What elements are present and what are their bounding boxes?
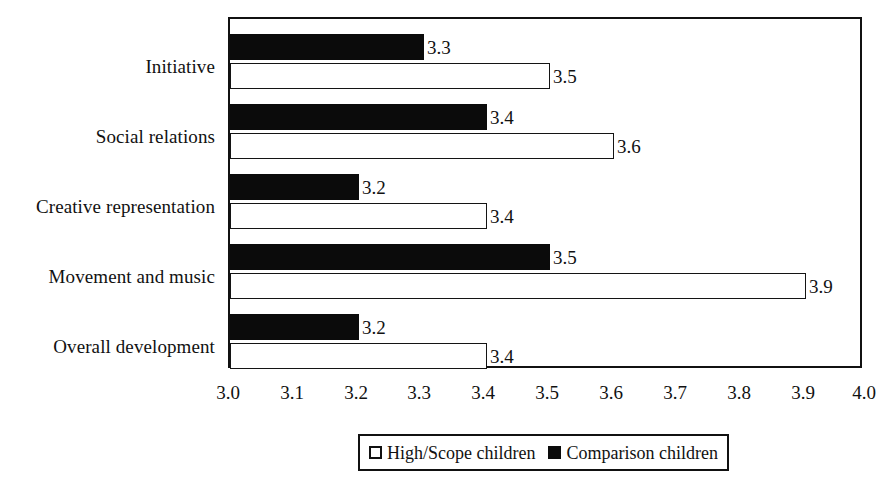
bar-highscope-creative-representation — [230, 203, 487, 229]
bar-comparison-movement-and-music — [230, 244, 550, 270]
chart-legend: High/Scope children Comparison children — [358, 434, 729, 471]
value-label-highscope-creative-representation: 3.4 — [490, 207, 514, 226]
xtick-3-2: 3.2 — [333, 383, 379, 402]
category-label-social-relations: Social relations — [96, 127, 215, 146]
category-label-overall-development: Overall development — [53, 337, 215, 356]
legend-swatch-filled-icon — [548, 446, 561, 459]
legend-label-highscope: High/Scope children — [387, 444, 535, 462]
category-label-movement-and-music: Movement and music — [49, 267, 215, 286]
value-label-comparison-overall-development: 3.2 — [362, 318, 386, 337]
xtick-3-3: 3.3 — [396, 383, 442, 402]
xtick-3-4: 3.4 — [460, 383, 506, 402]
bar-comparison-creative-representation — [230, 174, 359, 200]
legend-label-comparison: Comparison children — [566, 444, 717, 462]
xtick-3-8: 3.8 — [716, 383, 762, 402]
xtick-4-0: 4.0 — [841, 383, 885, 402]
bar-highscope-initiative — [230, 63, 550, 89]
category-label-initiative: Initiative — [145, 57, 215, 76]
category-label-creative-representation: Creative representation — [36, 197, 215, 216]
bar-comparison-social-relations — [230, 104, 487, 130]
plot-area — [228, 17, 862, 368]
bar-highscope-overall-development — [230, 343, 487, 369]
legend-entry-highscope: High/Scope children — [369, 444, 535, 462]
value-label-comparison-creative-representation: 3.2 — [362, 178, 386, 197]
value-label-highscope-overall-development: 3.4 — [490, 347, 514, 366]
legend-swatch-open-icon — [369, 446, 382, 459]
bar-highscope-movement-and-music — [230, 273, 806, 299]
bar-highscope-social-relations — [230, 133, 614, 159]
value-label-comparison-movement-and-music: 3.5 — [553, 248, 577, 267]
xtick-3-6: 3.6 — [588, 383, 634, 402]
bar-comparison-initiative — [230, 34, 424, 60]
bar-comparison-overall-development — [230, 314, 359, 340]
value-label-highscope-social-relations: 3.6 — [617, 137, 641, 156]
value-label-highscope-initiative: 3.5 — [553, 67, 577, 86]
xtick-3-9: 3.9 — [780, 383, 826, 402]
xtick-3-0: 3.0 — [205, 383, 251, 402]
value-label-comparison-initiative: 3.3 — [427, 38, 451, 57]
xtick-3-7: 3.7 — [652, 383, 698, 402]
bar-chart-figure: Initiative Social relations Creative rep… — [0, 0, 885, 497]
xtick-3-1: 3.1 — [269, 383, 315, 402]
xtick-3-5: 3.5 — [524, 383, 570, 402]
value-label-highscope-movement-and-music: 3.9 — [809, 277, 833, 296]
value-label-comparison-social-relations: 3.4 — [490, 108, 514, 127]
legend-entry-comparison: Comparison children — [548, 444, 717, 462]
